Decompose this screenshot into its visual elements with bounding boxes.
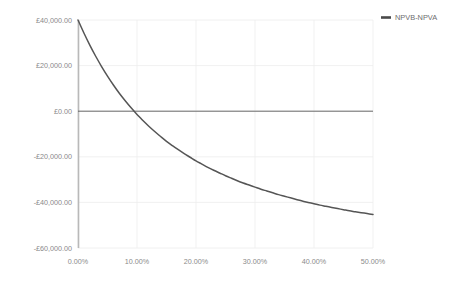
x-axis-tick-label: 20.00% xyxy=(184,257,209,266)
y-axis-tick-label: £0.00 xyxy=(54,107,72,116)
grid-lines-horizontal xyxy=(78,20,373,248)
y-axis-tick-labels: £40,000.00£20,000.00£0.00-£20,000.00-£40… xyxy=(34,16,72,253)
legend: NPVB-NPVA xyxy=(381,13,437,22)
chart-container: £40,000.00£20,000.00£0.00-£20,000.00-£40… xyxy=(0,0,465,286)
grid-lines-vertical xyxy=(78,20,373,248)
x-axis-tick-label: 30.00% xyxy=(243,257,268,266)
x-axis-tick-label: 50.00% xyxy=(361,257,386,266)
y-axis-tick-label: £20,000.00 xyxy=(36,61,72,70)
x-axis-tick-label: 0.00% xyxy=(68,257,89,266)
y-axis-tick-label: -£20,000.00 xyxy=(34,152,72,161)
y-axis-tick-label: -£60,000.00 xyxy=(34,244,72,253)
y-axis-tick-label: £40,000.00 xyxy=(36,16,72,25)
y-axis-tick-label: -£40,000.00 xyxy=(34,198,72,207)
series-line-npvb-npva xyxy=(78,20,373,214)
x-axis-tick-label: 40.00% xyxy=(302,257,327,266)
legend-label-npvb-npva: NPVB-NPVA xyxy=(395,13,437,22)
line-chart: £40,000.00£20,000.00£0.00-£20,000.00-£40… xyxy=(0,0,465,286)
x-axis-tick-label: 10.00% xyxy=(125,257,150,266)
x-axis-tick-labels: 0.00%10.00%20.00%30.00%40.00%50.00% xyxy=(68,257,386,266)
